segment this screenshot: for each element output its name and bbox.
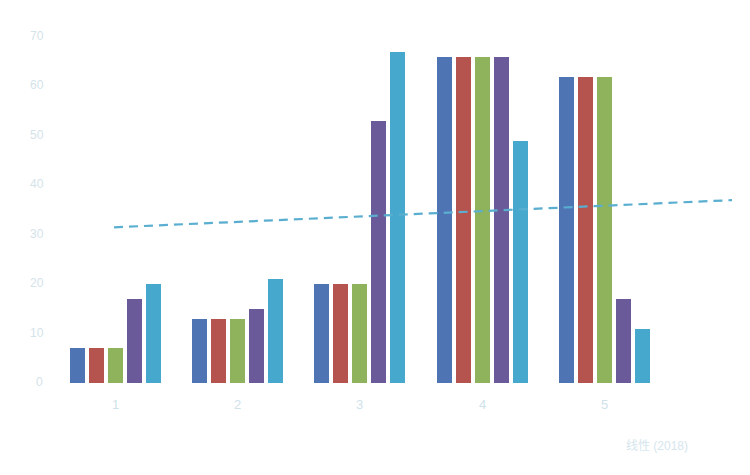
bar-chart: 010203040506070 12345 线性 (2018) — [0, 0, 750, 475]
trendline — [0, 0, 750, 475]
trendline-label: 线性 (2018) — [626, 436, 688, 453]
